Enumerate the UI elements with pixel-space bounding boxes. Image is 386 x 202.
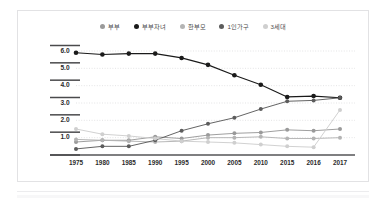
plot-area: 6.05.04.03.02.01.0 197519801985199019952…: [0, 0, 386, 202]
y-tick-labels: 6.05.04.03.02.01.0: [60, 47, 69, 141]
data-point: [179, 56, 184, 61]
data-point: [74, 147, 78, 151]
data-point: [259, 107, 263, 111]
data-point: [74, 127, 78, 131]
x-tick-label-2017: 2017: [333, 159, 348, 166]
footer-divider-secondary: [17, 195, 369, 198]
x-tick-label-2005: 2005: [227, 159, 242, 166]
data-point: [100, 144, 104, 148]
data-point: [259, 130, 263, 134]
y-tick-label-4.0: 4.0: [60, 81, 69, 88]
data-point: [232, 136, 236, 140]
data-point: [285, 137, 289, 141]
data-point: [312, 98, 316, 102]
y-tick-label-6.0: 6.0: [60, 47, 69, 54]
x-tick-label-2000: 2000: [201, 159, 216, 166]
data-point: [259, 143, 263, 147]
data-point: [180, 129, 184, 133]
data-point: [74, 137, 78, 141]
data-point: [338, 127, 342, 131]
data-point: [232, 131, 236, 135]
data-point: [259, 83, 264, 88]
data-point: [285, 128, 289, 132]
data-point: [232, 73, 237, 78]
data-point: [153, 51, 158, 56]
data-point: [127, 139, 131, 143]
data-point: [100, 52, 105, 57]
data-point: [285, 99, 289, 103]
data-point: [100, 132, 104, 136]
data-point: [285, 95, 290, 100]
series-line-1: [76, 53, 340, 98]
data-point: [153, 137, 157, 141]
x-tick-label-1995: 1995: [174, 159, 189, 166]
data-point: [206, 63, 211, 68]
chart-figure: 부부 부부자녀 한부모 1인가구 3세대 6.05.04.03.02.01.0 …: [0, 0, 386, 202]
data-point: [127, 134, 131, 138]
data-point: [100, 138, 104, 142]
y-tick-label-5.0: 5.0: [60, 64, 69, 71]
x-tick-label-2010: 2010: [254, 159, 269, 166]
x-tick-label-2016: 2016: [306, 159, 321, 166]
x-tick-labels: 1975198019851990199520002005201020152016…: [69, 159, 348, 166]
y-tick-label-3.0: 3.0: [60, 99, 69, 106]
x-tick-label-1990: 1990: [148, 159, 163, 166]
y-tick-label-1.0: 1.0: [60, 133, 69, 140]
data-point: [338, 96, 342, 100]
x-tick-label-1980: 1980: [95, 159, 110, 166]
y-tick-label-2.0: 2.0: [60, 116, 69, 123]
data-point: [206, 140, 210, 144]
data-point: [74, 50, 79, 55]
x-tick-label-1975: 1975: [69, 159, 84, 166]
data-point: [180, 139, 184, 143]
x-tick-label-2015: 2015: [280, 159, 295, 166]
data-point: [311, 94, 316, 99]
data-point: [338, 136, 342, 140]
data-point: [232, 116, 236, 120]
data-point: [285, 144, 289, 148]
data-point: [259, 135, 263, 139]
data-point: [232, 141, 236, 145]
data-point: [312, 129, 316, 133]
data-point: [312, 145, 316, 149]
plot-svg: 6.05.04.03.02.01.0 197519801985199019952…: [0, 0, 386, 202]
data-point: [127, 51, 132, 56]
data-point: [127, 144, 131, 148]
data-point: [206, 136, 210, 140]
footer-divider: [17, 191, 369, 192]
data-point: [338, 108, 342, 112]
x-tick-label-1985: 1985: [122, 159, 137, 166]
data-point: [312, 137, 316, 141]
data-point: [206, 122, 210, 126]
